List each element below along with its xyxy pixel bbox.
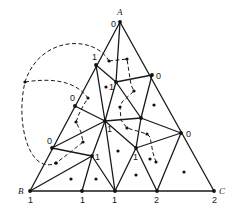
vertex-label-R1: 0: [156, 71, 161, 81]
edge-A-I1: [116, 22, 120, 82]
vertex-label-B: 1: [28, 195, 33, 205]
triangulation-diagram: 010010021121111 ABC: [0, 0, 235, 211]
face-dot: [116, 149, 119, 152]
path-dot: [74, 120, 77, 123]
path-dot: [125, 126, 128, 129]
edge-L1-I2: [96, 65, 105, 121]
vertex-label-B3: 2: [154, 195, 159, 205]
vertex-label-I1: 1: [109, 82, 114, 92]
vertex-label-I2: 1: [107, 124, 112, 134]
vertex-L3: [50, 146, 54, 150]
vertex-label-L2: 0: [70, 93, 75, 103]
path-dot: [107, 59, 110, 62]
vertex-R1: [150, 73, 154, 77]
vertex-L2: [73, 104, 77, 108]
vertex-points: [28, 20, 216, 193]
path-dot: [54, 161, 57, 164]
corner-label-B: B: [18, 186, 24, 196]
vertex-label-L3: 0: [47, 136, 52, 146]
edge-I4-R2: [136, 133, 181, 148]
vertex-label-B2: 1: [112, 195, 117, 205]
face-dot: [94, 177, 97, 180]
vertex-R2: [179, 131, 183, 135]
path-dot: [132, 89, 135, 92]
vertex-B: [28, 189, 32, 193]
path-dot: [118, 105, 121, 108]
vertex-B2: [113, 189, 117, 193]
edge-I3-I4: [136, 118, 141, 148]
path-dot: [125, 57, 128, 60]
vertex-I5: [90, 154, 94, 158]
corner-label-A: A: [116, 7, 123, 17]
vertex-label-R2: 0: [186, 129, 191, 139]
face-dot: [104, 85, 107, 88]
vertex-B1: [80, 189, 84, 193]
vertex-I3: [139, 116, 143, 120]
face-dot: [152, 103, 155, 106]
edge-L1-I1: [96, 65, 116, 82]
vertex-I2: [103, 119, 107, 123]
edge-I2-I3: [105, 118, 141, 121]
edge-I1-I3: [116, 82, 141, 118]
triangulation-edges: [30, 22, 214, 191]
face-dot: [182, 170, 185, 173]
vertex-label-A: 0: [111, 19, 116, 29]
vertex-label-L1: 1: [92, 52, 97, 62]
face-dot: [148, 157, 151, 160]
vertex-B3: [155, 189, 159, 193]
vertex-label-I4: 1: [133, 152, 138, 162]
edge-R2-B3: [157, 133, 181, 191]
vertex-A: [118, 20, 122, 24]
edge-L3-I5: [52, 148, 92, 156]
edge-I1-R1: [116, 75, 152, 82]
path-dot: [145, 132, 148, 135]
corner-label-C: C: [219, 186, 226, 196]
vertex-I4: [134, 146, 138, 150]
vertex-label-B1: 1: [80, 195, 85, 205]
path-dot: [81, 140, 84, 143]
path-dot: [154, 160, 157, 163]
vertex-label-I5: 1: [95, 152, 100, 162]
dashed-path-2: [25, 80, 88, 163]
edge-R1-I3: [141, 75, 152, 118]
vertex-C: [212, 189, 216, 193]
face-dot: [69, 177, 72, 180]
path-dot: [23, 80, 26, 83]
face-dot: [134, 173, 137, 176]
path-dot: [86, 96, 89, 99]
vertex-I1: [114, 80, 118, 84]
vertex-label-C: 2: [212, 195, 217, 205]
vertex-L1: [94, 63, 98, 67]
